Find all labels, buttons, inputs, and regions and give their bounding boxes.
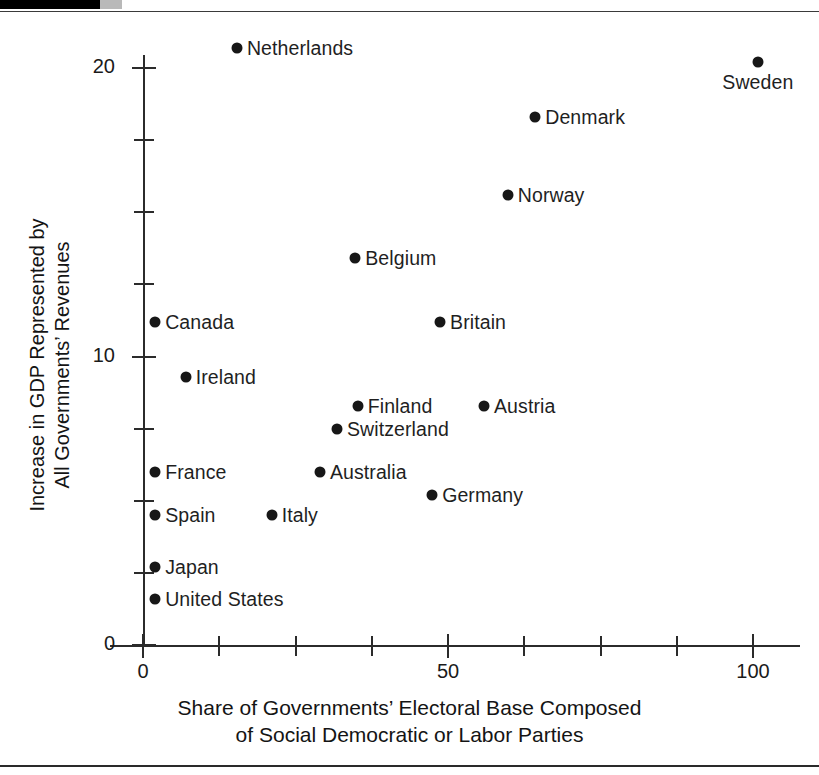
x-axis-tick-minor — [523, 636, 525, 656]
scatter-point[interactable] — [350, 253, 361, 264]
scatter-point-label: Sweden — [722, 71, 793, 94]
scatter-point-label: Germany — [442, 483, 523, 506]
y-axis-tick-minor — [134, 428, 154, 430]
scatter-point-label: Canada — [165, 310, 234, 333]
y-axis-tick-minor — [134, 211, 154, 213]
x-axis-title-line2: of Social Democratic or Labor Parties — [0, 721, 819, 748]
x-axis-tick-minor — [371, 636, 373, 656]
scatter-point[interactable] — [435, 316, 446, 327]
x-axis-tick-minor — [600, 636, 602, 656]
x-axis-tick-minor — [295, 636, 297, 656]
scatter-point-label: Austria — [494, 394, 555, 417]
scatter-point[interactable] — [150, 510, 161, 521]
y-axis-tick-major — [132, 356, 156, 358]
scatter-point[interactable] — [530, 112, 541, 123]
plot-area: 01020050100 NetherlandsSwedenDenmarkNorw… — [0, 0, 819, 775]
scatter-point[interactable] — [150, 593, 161, 604]
scatter-point[interactable] — [150, 316, 161, 327]
x-axis-tick-label: 0 — [137, 660, 148, 683]
scatter-point-label: Switzerland — [347, 417, 449, 440]
y-axis-title: Increase in GDP Represented by All Gover… — [25, 105, 75, 625]
x-axis-title-line1: Share of Governments’ Electoral Base Com… — [0, 694, 819, 721]
scatter-point[interactable] — [314, 466, 325, 477]
scatter-point-label: Finland — [368, 394, 433, 417]
scatter-point[interactable] — [352, 400, 363, 411]
y-axis-line — [143, 55, 145, 647]
scatter-point[interactable] — [427, 489, 438, 500]
y-axis-tick-major — [132, 67, 156, 69]
scatter-point-label: United States — [165, 587, 283, 610]
y-axis-tick-minor — [134, 283, 154, 285]
scatter-point[interactable] — [150, 562, 161, 573]
scatter-point[interactable] — [478, 400, 489, 411]
scatter-point-label: France — [165, 460, 226, 483]
scatter-point-label: Ireland — [196, 365, 256, 388]
scatter-point[interactable] — [752, 57, 763, 68]
scatter-point-label: Norway — [518, 183, 585, 206]
scatter-point-label: Netherlands — [247, 36, 353, 59]
scatter-point-label: Belgium — [365, 247, 436, 270]
scatter-point-label: Australia — [330, 460, 407, 483]
y-axis-tick-minor — [134, 500, 154, 502]
y-axis-title-line2: All Governments’ Revenues — [50, 105, 75, 625]
y-axis-tick-minor — [134, 572, 154, 574]
scatter-point[interactable] — [502, 189, 513, 200]
x-axis-line — [110, 645, 800, 647]
scatter-point-label: Spain — [165, 504, 215, 527]
scatter-point[interactable] — [331, 423, 342, 434]
x-axis-tick-major — [752, 634, 754, 658]
x-axis-title: Share of Governments’ Electoral Base Com… — [0, 694, 819, 748]
scatter-point-label: Denmark — [545, 106, 625, 129]
x-axis-tick-label: 100 — [736, 660, 769, 683]
scatter-point-label: Italy — [282, 504, 318, 527]
scatter-point-label: Britain — [450, 310, 506, 333]
scatter-point[interactable] — [150, 466, 161, 477]
x-axis-tick-major — [447, 634, 449, 658]
y-axis-tick-minor — [134, 139, 154, 141]
x-axis-tick-label: 50 — [437, 660, 459, 683]
y-axis-title-line1: Increase in GDP Represented by — [25, 105, 50, 625]
scatter-point-label: Japan — [165, 556, 219, 579]
x-axis-tick-minor — [218, 636, 220, 656]
y-axis-tick-major — [132, 644, 156, 646]
x-axis-tick-major — [142, 634, 144, 658]
x-axis-tick-minor — [676, 636, 678, 656]
scatter-point[interactable] — [266, 510, 277, 521]
scatter-point[interactable] — [231, 42, 242, 53]
scatter-point[interactable] — [180, 371, 191, 382]
figure-scatter-plot: 01020050100 NetherlandsSwedenDenmarkNorw… — [0, 0, 819, 775]
